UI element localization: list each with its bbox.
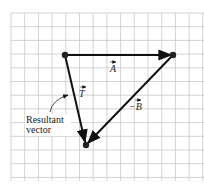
svg-text:A: A	[109, 63, 117, 74]
label-t: T	[79, 87, 86, 99]
svg-text:T: T	[79, 88, 86, 99]
vector-diagram: A T −B Resultant vector	[0, 0, 204, 191]
svg-text:−B: −B	[129, 101, 142, 112]
resultant-annotation: Resultant vector	[25, 95, 71, 136]
label-neg-b: −B	[129, 100, 142, 112]
label-a: A	[109, 62, 117, 74]
annotation-line2: vector	[26, 124, 52, 135]
point-1	[62, 52, 68, 58]
point-3	[83, 142, 89, 148]
grid	[11, 13, 204, 181]
point-2	[170, 52, 176, 58]
